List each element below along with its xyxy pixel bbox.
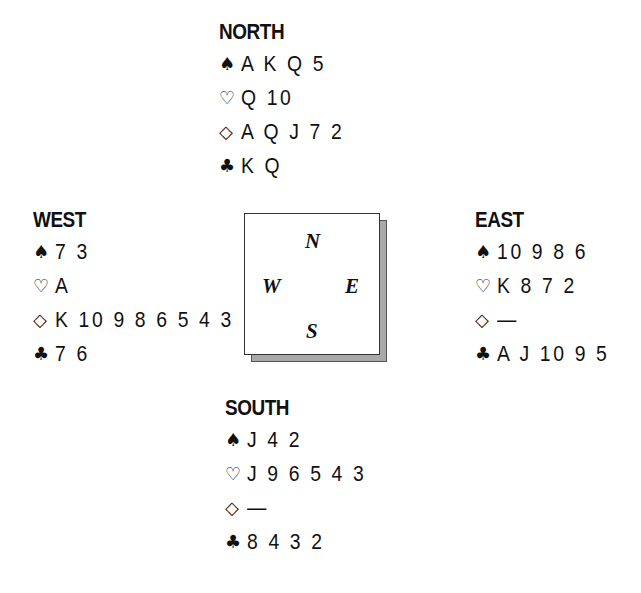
west-label: WEST: [33, 205, 227, 235]
south-spades-row: ♠J 4 2: [225, 423, 383, 457]
compass-box: N W E S: [244, 213, 380, 355]
east-spades: 10 9 8 6: [497, 235, 588, 269]
compass-north: N: [305, 229, 320, 254]
east-hearts-row: ♡K 8 7 2: [475, 269, 625, 303]
west-spades: 7 3: [55, 235, 90, 269]
club-icon: ♣: [219, 149, 241, 183]
east-spades-row: ♠10 9 8 6: [475, 235, 625, 269]
west-spades-row: ♠7 3: [33, 235, 258, 269]
east-hand: EAST ♠10 9 8 6 ♡K 8 7 2 ◇— ♣A J 10 9 5: [475, 205, 625, 371]
south-label: SOUTH: [225, 393, 361, 423]
spade-icon: ♠: [475, 235, 497, 269]
club-icon: ♣: [225, 525, 247, 559]
diamond-icon: ◇: [33, 303, 55, 337]
east-diamonds-row: ◇—: [475, 303, 625, 337]
diamond-icon: ◇: [475, 303, 497, 337]
spade-icon: ♠: [219, 47, 241, 81]
compass-face: N W E S: [244, 213, 380, 355]
north-hearts-row: ♡Q 10: [219, 81, 359, 115]
east-clubs: A J 10 9 5: [497, 337, 610, 371]
compass-south: S: [306, 319, 318, 344]
club-icon: ♣: [475, 337, 497, 371]
club-icon: ♣: [33, 337, 55, 371]
west-hearts: A: [55, 269, 71, 303]
heart-icon: ♡: [475, 269, 497, 303]
diamond-icon: ◇: [225, 491, 247, 525]
north-clubs-row: ♣K Q: [219, 149, 359, 183]
south-diamonds: —: [247, 491, 269, 525]
north-spades: A K Q 5: [241, 47, 326, 81]
south-hand: SOUTH ♠J 4 2 ♡J 9 6 5 4 3 ◇— ♣8 4 3 2: [225, 393, 383, 559]
south-hearts: J 9 6 5 4 3: [247, 457, 366, 491]
heart-icon: ♡: [219, 81, 241, 115]
south-diamonds-row: ◇—: [225, 491, 383, 525]
spade-icon: ♠: [33, 235, 55, 269]
west-clubs: 7 6: [55, 337, 90, 371]
diamond-icon: ◇: [219, 115, 241, 149]
north-clubs: K Q: [241, 149, 282, 183]
west-clubs-row: ♣7 6: [33, 337, 258, 371]
south-hearts-row: ♡J 9 6 5 4 3: [225, 457, 383, 491]
north-spades-row: ♠A K Q 5: [219, 47, 359, 81]
east-diamonds: —: [497, 303, 519, 337]
east-label: EAST: [475, 205, 604, 235]
north-label: NORTH: [219, 17, 339, 47]
east-hearts: K 8 7 2: [497, 269, 577, 303]
heart-icon: ♡: [225, 457, 247, 491]
west-hand: WEST ♠7 3 ♡A ◇K 10 9 8 6 5 4 3 ♣7 6: [33, 205, 258, 371]
west-diamonds-row: ◇K 10 9 8 6 5 4 3: [33, 303, 258, 337]
spade-icon: ♠: [225, 423, 247, 457]
north-diamonds: A Q J 7 2: [241, 115, 344, 149]
south-clubs: 8 4 3 2: [247, 525, 325, 559]
compass-east: E: [345, 274, 359, 299]
north-hand: NORTH ♠A K Q 5 ♡Q 10 ◇A Q J 7 2 ♣K Q: [219, 17, 359, 183]
compass-west: W: [262, 274, 281, 299]
north-hearts: Q 10: [241, 81, 294, 115]
north-diamonds-row: ◇A Q J 7 2: [219, 115, 359, 149]
east-clubs-row: ♣A J 10 9 5: [475, 337, 625, 371]
heart-icon: ♡: [33, 269, 55, 303]
south-clubs-row: ♣8 4 3 2: [225, 525, 383, 559]
west-hearts-row: ♡A: [33, 269, 258, 303]
west-diamonds: K 10 9 8 6 5 4 3: [55, 303, 234, 337]
south-spades: J 4 2: [247, 423, 302, 457]
